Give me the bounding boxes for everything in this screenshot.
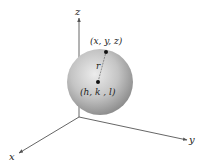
x-axis <box>19 117 79 153</box>
center-point-label: (h, k , l) <box>80 88 115 97</box>
radius-label: r <box>96 62 100 71</box>
sphere-diagram: z y x (x, y, z) r (h, k , l) <box>0 0 203 166</box>
surface-point-label: (x, y, z) <box>90 37 122 46</box>
z-axis-label: z <box>75 7 80 17</box>
center-point <box>96 80 100 84</box>
x-axis-label: x <box>9 152 15 162</box>
y-axis <box>79 117 187 140</box>
surface-point <box>104 50 108 54</box>
y-axis-label: y <box>189 135 195 145</box>
diagram-canvas <box>0 0 203 166</box>
